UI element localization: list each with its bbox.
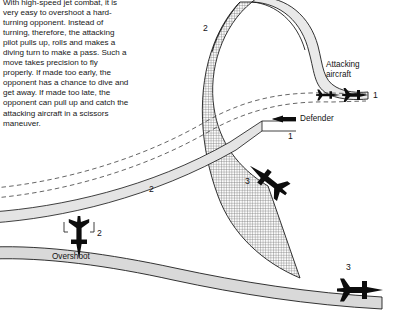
aircraft-icon-attacker-1-glyph — [342, 88, 368, 102]
marker-attacker-3-bottom: 3 — [346, 262, 351, 272]
attacker-band-hatched — [202, 2, 300, 278]
body-paragraph: With high-speed jet combat, it is very e… — [3, 0, 129, 129]
marker-defender-2: 2 — [149, 184, 154, 194]
marker-attacker-3-mid: 3 — [245, 176, 250, 186]
marker-overshoot-2: 2 — [97, 228, 102, 238]
label-overshoot: Overshoot — [52, 252, 90, 262]
attacker-approach-band — [252, 0, 368, 100]
figure-canvas: THE HIGH-SPEED YO-YO With high-speed jet… — [0, 0, 393, 313]
label-attacking-aircraft-line1: Attacking — [326, 60, 360, 70]
label-attacking-aircraft-line2: aircraft — [326, 70, 351, 80]
marker-attacker-2: 2 — [203, 23, 208, 33]
label-defender: Defender — [300, 114, 334, 124]
marker-attacker-1: 1 — [373, 90, 378, 100]
marker-defender-1: 1 — [288, 131, 293, 141]
defender-arrow-icon — [272, 115, 296, 122]
attacker-flight-band — [202, 2, 300, 278]
